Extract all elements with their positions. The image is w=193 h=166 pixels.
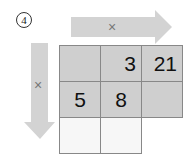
grid-cell-r2c1[interactable]: 5 <box>60 82 101 118</box>
multiplication-grid: 3 21 5 8 <box>59 45 183 154</box>
horizontal-multiply-icon: × <box>108 20 116 34</box>
grid-cell-r1c1[interactable] <box>60 46 101 82</box>
grid-row-2: 5 8 <box>60 82 183 118</box>
grid-cell-r3c3-empty <box>142 118 183 154</box>
grid-cell-r3c1[interactable] <box>60 118 101 154</box>
grid-cell-r3c2[interactable] <box>101 118 142 154</box>
grid-cell-r1c2[interactable]: 3 <box>101 46 142 82</box>
grid-row-3 <box>60 118 183 154</box>
horizontal-arrow-icon <box>71 10 172 44</box>
vertical-multiply-icon: × <box>34 78 42 92</box>
grid-cell-r2c3[interactable] <box>142 82 183 118</box>
grid-row-1: 3 21 <box>60 46 183 82</box>
grid-cell-r1c3[interactable]: 21 <box>142 46 183 82</box>
grid-cell-r2c2[interactable]: 8 <box>101 82 142 118</box>
